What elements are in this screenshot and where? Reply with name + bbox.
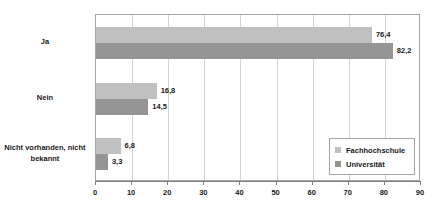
bar-chart: JaNeinNicht vorhanden, nichtbekannt 76,4… [0, 0, 442, 216]
x-axis-tick-label: 30 [199, 188, 207, 197]
bar-value-label: 6,8 [125, 138, 135, 154]
x-axis-tick-label: 10 [127, 188, 135, 197]
x-axis-tick [420, 181, 421, 185]
category-label: Ja [0, 36, 90, 47]
category-label: Nein [0, 92, 90, 103]
x-axis-tick [276, 181, 277, 185]
category-label-line: Ja [0, 36, 90, 47]
bar-fachhochschule-2 [96, 138, 121, 154]
x-axis: 0102030405060708090 [95, 181, 420, 182]
x-axis-tick [312, 181, 313, 185]
legend-swatch-icon [335, 147, 341, 153]
legend-label: Universität [346, 160, 385, 169]
x-axis-tick-label: 50 [271, 188, 279, 197]
legend-label: Fachhochschule [346, 146, 405, 155]
bar-fachhochschule-0 [96, 27, 372, 43]
bar-universit-t-1 [96, 99, 148, 115]
bar-value-label: 3,3 [112, 154, 122, 170]
bar-value-label: 16,8 [161, 83, 176, 99]
x-axis-tick-label: 20 [163, 188, 171, 197]
bar-value-label: 82,2 [397, 43, 412, 59]
x-axis-tick-label: 0 [93, 188, 97, 197]
x-axis-tick [384, 181, 385, 185]
x-axis-tick-label: 40 [235, 188, 243, 197]
legend-item-universit-t[interactable]: Universität [335, 157, 414, 171]
x-axis-tick-label: 60 [307, 188, 315, 197]
bar-value-label: 14,5 [152, 99, 167, 115]
x-axis-tick [95, 181, 96, 185]
bar-universit-t-0 [96, 43, 393, 59]
x-axis-tick-label: 70 [344, 188, 352, 197]
bar-value-label: 76,4 [376, 27, 391, 43]
x-axis-tick [239, 181, 240, 185]
x-axis-tick [348, 181, 349, 185]
x-axis-tick [203, 181, 204, 185]
x-axis-tick [167, 181, 168, 185]
x-axis-tick [131, 181, 132, 185]
legend-item-fachhochschule[interactable]: Fachhochschule [335, 143, 414, 157]
category-label-line: bekannt [0, 153, 90, 164]
category-axis-labels: JaNeinNicht vorhanden, nichtbekannt [0, 14, 95, 181]
bar-fachhochschule-1 [96, 83, 157, 99]
category-label: Nicht vorhanden, nichtbekannt [0, 142, 90, 164]
category-label-line: Nein [0, 92, 90, 103]
category-label-line: Nicht vorhanden, nicht [0, 142, 90, 153]
x-axis-tick-label: 90 [416, 188, 424, 197]
bar-universit-t-2 [96, 154, 108, 170]
chart-legend: FachhochschuleUniversität [329, 138, 415, 175]
x-axis-tick-label: 80 [380, 188, 388, 197]
legend-swatch-icon [335, 161, 341, 167]
